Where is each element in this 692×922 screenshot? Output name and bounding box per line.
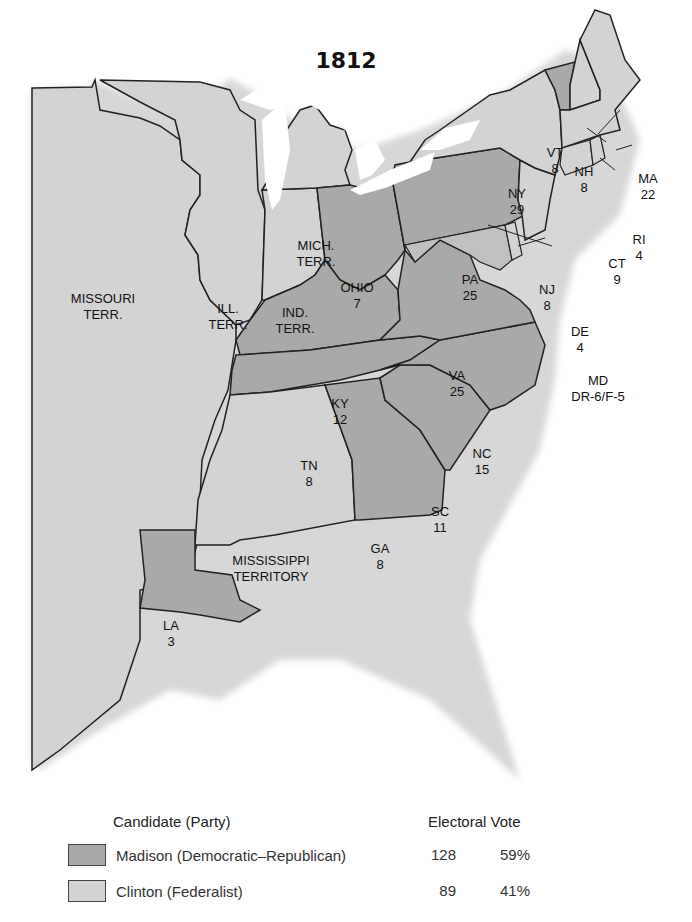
svg-text:RI4: RI4 bbox=[633, 232, 646, 263]
svg-text:NY29: NY29 bbox=[508, 186, 526, 217]
legend-vote-header: Electoral Vote bbox=[428, 813, 521, 830]
svg-text:SC11: SC11 bbox=[431, 504, 449, 535]
clinton-label: Clinton (Federalist) bbox=[116, 883, 243, 900]
svg-text:KY12: KY12 bbox=[331, 396, 349, 427]
legend-row-madison: Madison (Democratic–Republican) bbox=[68, 843, 346, 867]
madison-swatch bbox=[68, 844, 106, 866]
svg-text:NC15: NC15 bbox=[473, 446, 492, 477]
svg-text:VA25: VA25 bbox=[449, 368, 466, 399]
electoral-map: MISSOURITERR. ILL.TERR. IND.TERR. MICH.T… bbox=[0, 0, 692, 800]
clinton-votes: 89 bbox=[420, 882, 456, 899]
madison-percent: 59% bbox=[480, 846, 530, 863]
madison-label: Madison (Democratic–Republican) bbox=[116, 847, 346, 864]
svg-text:MISSISSIPPITERRITORY: MISSISSIPPITERRITORY bbox=[232, 553, 309, 584]
svg-text:CT9: CT9 bbox=[608, 256, 625, 287]
svg-text:DE4: DE4 bbox=[571, 324, 589, 355]
legend-candidate-header: Candidate (Party) bbox=[113, 813, 231, 830]
svg-text:MDDR-6/F-5: MDDR-6/F-5 bbox=[571, 373, 624, 404]
svg-text:MA22: MA22 bbox=[638, 171, 658, 202]
legend-row-clinton: Clinton (Federalist) bbox=[68, 879, 243, 903]
svg-text:MICH.TERR.: MICH.TERR. bbox=[297, 238, 336, 269]
clinton-swatch bbox=[68, 880, 106, 902]
madison-votes: 128 bbox=[420, 846, 456, 863]
clinton-percent: 41% bbox=[480, 882, 530, 899]
svg-text:PA25: PA25 bbox=[462, 272, 479, 303]
